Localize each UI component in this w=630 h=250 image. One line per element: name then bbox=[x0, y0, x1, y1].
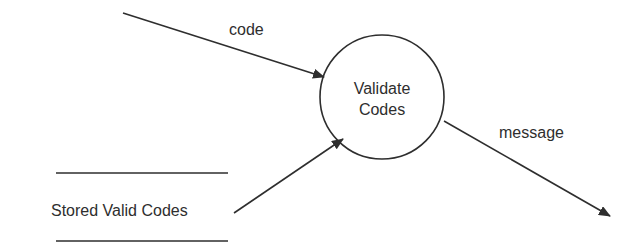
code-flow-arrow bbox=[123, 13, 324, 77]
process-label: Validate Codes bbox=[320, 78, 444, 120]
message-flow-label: message bbox=[499, 125, 564, 141]
process-label-line1: Validate bbox=[320, 78, 444, 99]
stored-codes-flow-arrow bbox=[234, 139, 343, 213]
process-label-line2: Codes bbox=[320, 99, 444, 120]
code-flow-label: code bbox=[229, 22, 264, 38]
data-store-label: Stored Valid Codes bbox=[51, 203, 188, 219]
